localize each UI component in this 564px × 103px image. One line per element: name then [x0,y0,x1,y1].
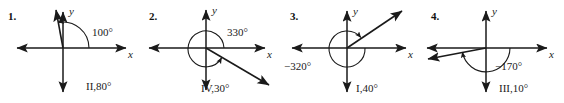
panel-4-terminal-ray [428,48,486,59]
panel-4-y-axis-label: y [491,5,497,17]
panel-4-diagram: x y −170° III,10° [423,0,564,103]
panel-2: 2. x y 330° IV,30° [141,0,282,103]
panel-4-answer-label: III,10° [499,82,528,94]
panel-1-terminal-ray [56,10,63,48]
panel-3-y-axis-label: y [352,5,358,17]
panel-1-angle-label: 100° [92,26,113,38]
panel-4-x-axis-label: x [548,48,554,60]
panel-3-diagram: x y −320° I,40° [282,0,423,103]
panel-2-angle-label: 330° [227,26,248,38]
panel-1-x-axis-label: x [127,48,133,60]
panel-3: 3. x y −320° I,40° [282,0,423,103]
panel-3-angle-label: −320° [284,60,311,72]
panel-4: 4. x y −170° III,10° [423,0,564,103]
panel-2-y-axis-label: y [211,4,217,16]
panel-2-diagram: x y 330° IV,30° [141,0,282,103]
panel-3-answer-label: I,40° [356,82,378,94]
panel-1-y-axis-label: y [68,5,74,17]
panel-2-answer-label: IV,30° [201,82,229,94]
angle-diagram-figure: 1. x y 100° II,80° [0,0,564,103]
panel-1-diagram: x y 100° II,80° [0,0,141,103]
panel-1: 1. x y 100° II,80° [0,0,141,103]
panel-4-angle-label: −170° [495,60,522,72]
panel-2-x-axis-label: x [266,48,272,60]
panel-2-terminal-ray [206,48,269,85]
panel-1-answer-label: II,80° [86,80,111,92]
panel-3-x-axis-label: x [407,48,413,60]
